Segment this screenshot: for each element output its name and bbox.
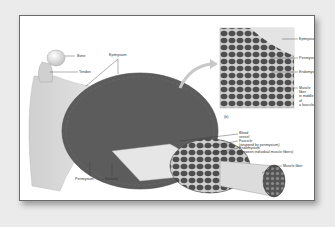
panel-b-label: (b) bbox=[224, 115, 228, 119]
micrograph-label-perimysium: Perimysium bbox=[299, 56, 315, 60]
figure-frame: Bone Tendon Epimysium Perimysium Fascicl… bbox=[19, 15, 315, 201]
micrograph-label-endomysium: Endomysium bbox=[299, 70, 315, 74]
label-endomysium: Endomysium (between individual muscle fi… bbox=[239, 146, 293, 154]
label-epimysium: Epimysium bbox=[109, 53, 127, 57]
label-perimysium: Perimysium bbox=[75, 177, 94, 181]
bone-head bbox=[47, 50, 65, 66]
label-tendon: Tendon bbox=[79, 70, 91, 74]
muscle-anatomy-illustration bbox=[20, 16, 314, 200]
label-bone: Bone bbox=[77, 54, 85, 58]
label-muscle-fiber: Muscle fiber bbox=[283, 164, 302, 168]
label-fascicle: Fascicle bbox=[105, 177, 118, 181]
micrograph-label-epimysium: Epimysium bbox=[299, 37, 315, 41]
arrow-head-icon bbox=[210, 59, 218, 69]
micrograph-label-muscle-fiber: Muscle fiber in middle of a fascicle bbox=[299, 86, 314, 107]
myofibrils-cross-section bbox=[263, 165, 285, 197]
